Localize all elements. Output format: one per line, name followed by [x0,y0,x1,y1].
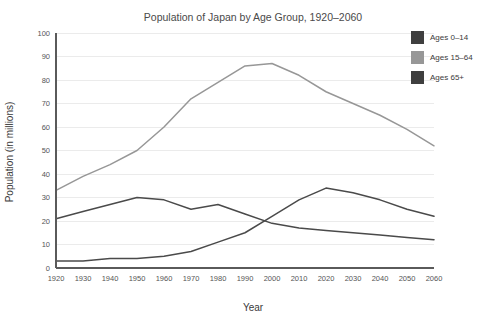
x-tick-label: 1940 [102,274,119,283]
y-tick-label: 30 [42,193,50,202]
y-tick-label: 70 [42,99,50,108]
y-tick-label: 50 [42,146,50,155]
x-tick-label: 2020 [318,274,335,283]
x-tick-label: 1970 [183,274,200,283]
x-tick-label: 1990 [237,274,254,283]
x-tick-label: 2060 [426,274,443,283]
y-tick-label: 0 [46,264,50,273]
x-tick-label: 2030 [345,274,362,283]
x-tick-label: 2010 [291,274,308,283]
x-tick-label: 2050 [399,274,416,283]
series-line-ages-65 [56,188,434,261]
x-tick-label: 1980 [210,274,227,283]
x-tick-label: 1920 [48,274,65,283]
gridlines-group [56,33,434,245]
x-axis-title: Year [243,302,264,313]
y-tick-label: 10 [42,240,50,249]
x-tick-label: 2040 [372,274,389,283]
legend-swatch [411,51,424,64]
y-tick-labels-group: 0102030405060708090100 [37,29,50,273]
x-tick-label: 1960 [156,274,173,283]
y-tick-label: 60 [42,123,50,132]
legend-swatch [411,31,424,44]
x-tick-label: 2000 [264,274,281,283]
y-tick-label: 40 [42,170,50,179]
legend-label: Ages 15–64 [430,53,473,62]
chart-title: Population of Japan by Age Group, 1920–2… [144,11,363,23]
y-axis-title: Population (in millions) [4,102,15,203]
y-tick-label: 20 [42,217,50,226]
legend-swatch [411,71,424,84]
x-tick-labels-group: 1920193019401950196019701980199020002010… [48,274,443,283]
legend-label: Ages 0–14 [430,33,469,42]
legend-label: Ages 65+ [430,73,464,82]
y-tick-label: 80 [42,76,50,85]
x-tick-label: 1950 [129,274,146,283]
y-tick-label: 90 [42,52,50,61]
series-group [56,64,434,261]
legend-group: Ages 0–14Ages 15–64Ages 65+ [411,31,473,84]
x-tick-label: 1930 [75,274,92,283]
y-tick-label: 100 [37,29,50,38]
population-line-chart: 0102030405060708090100 19201930194019501… [0,0,502,321]
